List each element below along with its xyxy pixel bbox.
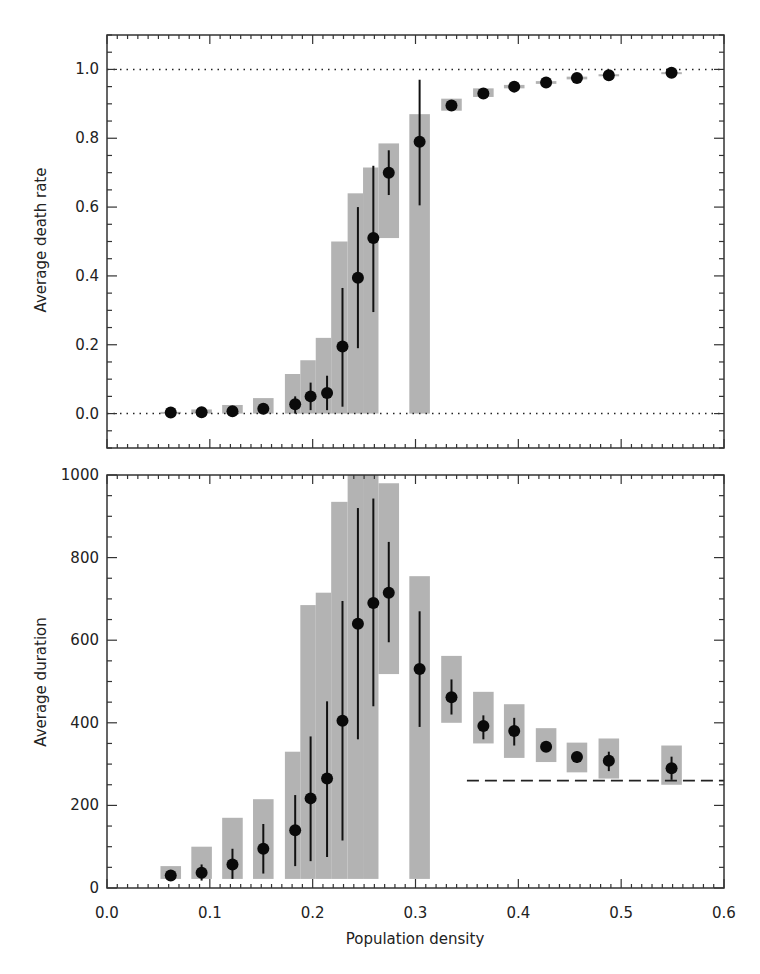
- data-point: [305, 390, 317, 402]
- y-tick-label: 400: [70, 714, 99, 732]
- data-point: [477, 720, 489, 732]
- range-box: [316, 593, 331, 879]
- data-point: [289, 824, 301, 836]
- data-point: [226, 405, 238, 417]
- y-tick-label: 0.8: [75, 129, 99, 147]
- data-point: [571, 72, 583, 84]
- x-axis-title: Population density: [346, 930, 485, 948]
- data-point: [571, 751, 583, 763]
- data-point: [508, 81, 520, 93]
- range-box: [300, 605, 315, 879]
- data-point: [414, 136, 426, 148]
- range-box: [316, 338, 331, 414]
- data-point: [367, 597, 379, 609]
- range-box: [285, 752, 300, 879]
- data-point: [226, 858, 238, 870]
- range-box: [300, 360, 315, 413]
- y-tick-label: 600: [70, 631, 99, 649]
- figure: 0.00.20.40.60.81.0 020040060080010000.00…: [0, 0, 760, 974]
- data-point: [666, 762, 678, 774]
- y-tick-label: 0: [89, 879, 99, 897]
- y-tick-label: 0.0: [75, 405, 99, 423]
- data-point: [257, 843, 269, 855]
- data-point: [289, 398, 301, 410]
- data-point: [445, 691, 457, 703]
- x-tick-label: 0.4: [506, 904, 530, 922]
- data-point: [336, 715, 348, 727]
- y-axis-title-duration: Average duration: [32, 617, 50, 747]
- range-box: [363, 475, 378, 879]
- data-point: [666, 67, 678, 79]
- data-point: [603, 69, 615, 81]
- x-tick-label: 0.6: [712, 904, 736, 922]
- y-tick-label: 200: [70, 796, 99, 814]
- y-tick-label: 800: [70, 549, 99, 567]
- data-point: [165, 407, 177, 419]
- data-point: [352, 272, 364, 284]
- x-tick-label: 0.5: [609, 904, 633, 922]
- data-point: [445, 100, 457, 112]
- data-point: [196, 867, 208, 879]
- range-box: [331, 502, 347, 879]
- y-tick-label: 0.2: [75, 336, 99, 354]
- data-point: [540, 76, 552, 88]
- data-point: [508, 725, 520, 737]
- range-box: [363, 168, 378, 414]
- y-tick-label: 1000: [61, 466, 99, 484]
- data-point: [352, 618, 364, 630]
- range-box: [348, 193, 363, 413]
- data-point: [477, 88, 489, 100]
- data-point: [383, 167, 395, 179]
- panel-death-rate: 0.00.20.40.60.81.0: [75, 35, 724, 448]
- y-tick-label: 0.6: [75, 198, 99, 216]
- y-axis-title-death-rate: Average death rate: [32, 168, 50, 313]
- x-tick-label: 0.2: [301, 904, 325, 922]
- data-point: [321, 773, 333, 785]
- data-point: [321, 387, 333, 399]
- y-tick-label: 1.0: [75, 60, 99, 78]
- data-point: [336, 340, 348, 352]
- data-point: [540, 741, 552, 753]
- data-point: [414, 663, 426, 675]
- range-box: [348, 475, 363, 879]
- panel-duration: 020040060080010000.00.10.20.30.40.50.6: [61, 466, 736, 922]
- data-point: [196, 406, 208, 418]
- data-point: [383, 587, 395, 599]
- data-point: [257, 403, 269, 415]
- y-tick-label: 0.4: [75, 267, 99, 285]
- x-tick-label: 0.1: [198, 904, 222, 922]
- data-point: [165, 870, 177, 882]
- range-box: [331, 242, 347, 414]
- data-point: [367, 232, 379, 244]
- x-tick-label: 0.3: [404, 904, 428, 922]
- data-point: [603, 755, 615, 767]
- data-point: [305, 792, 317, 804]
- x-tick-label: 0.0: [95, 904, 119, 922]
